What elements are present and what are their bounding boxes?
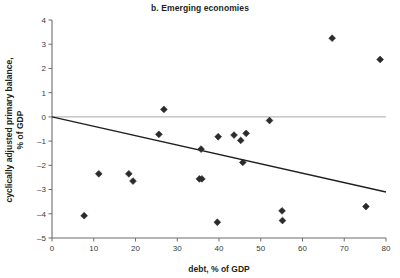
y-tick-label: 1 xyxy=(42,89,47,98)
y-axis-title: cyclically adjusted primary balance, % o… xyxy=(4,57,25,202)
x-tick-label: 40 xyxy=(215,244,224,253)
data-point-marker xyxy=(329,35,336,42)
data-points xyxy=(81,35,384,226)
data-point-marker xyxy=(237,137,244,144)
x-tick-label: 70 xyxy=(340,244,349,253)
y-tick-label: 0 xyxy=(42,113,47,122)
data-point-marker xyxy=(125,170,132,177)
y-tick-label: 4 xyxy=(42,16,47,25)
data-point-marker xyxy=(130,178,137,185)
data-point-marker xyxy=(81,212,88,219)
data-point-marker xyxy=(215,133,222,140)
scatter-plot: cyclically adjusted primary balance, % o… xyxy=(0,0,400,278)
x-tick-label: 80 xyxy=(382,244,391,253)
trend-line xyxy=(52,117,386,192)
x-axis-title: debt, % of GDP xyxy=(188,264,250,274)
data-point-marker xyxy=(363,203,370,210)
y-tick-label: –5 xyxy=(37,234,46,243)
data-point-marker xyxy=(243,130,250,137)
y-tick-label: –3 xyxy=(37,185,46,194)
data-point-marker xyxy=(160,106,167,113)
data-point-marker xyxy=(279,207,286,214)
x-tick-label: 50 xyxy=(256,244,265,253)
y-axis-ticks: –5–4–3–2–101234 xyxy=(37,16,52,243)
x-tick-label: 0 xyxy=(50,244,55,253)
trend-line-segment xyxy=(52,117,386,192)
y-axis-title-line2: % of GDP xyxy=(15,110,25,149)
chart-figure: b. Emerging economies cyclically adjuste… xyxy=(0,0,400,278)
y-tick-label: –4 xyxy=(37,210,46,219)
x-tick-label: 10 xyxy=(89,244,98,253)
y-tick-label: –1 xyxy=(37,137,46,146)
data-point-marker xyxy=(266,117,273,124)
x-tick-label: 30 xyxy=(173,244,182,253)
y-tick-label: –2 xyxy=(37,161,46,170)
data-point-marker xyxy=(155,131,162,138)
data-point-marker xyxy=(95,170,102,177)
y-axis-title-line1: cyclically adjusted primary balance, xyxy=(4,57,14,202)
data-point-marker xyxy=(279,217,286,224)
x-axis-ticks: 01020304050607080 xyxy=(50,238,391,253)
x-tick-label: 60 xyxy=(298,244,307,253)
y-tick-label: 2 xyxy=(42,64,47,73)
data-point-marker xyxy=(231,132,238,139)
y-tick-label: 3 xyxy=(42,40,47,49)
data-point-marker xyxy=(377,56,384,63)
data-point-marker xyxy=(214,219,221,226)
x-tick-label: 20 xyxy=(131,244,140,253)
